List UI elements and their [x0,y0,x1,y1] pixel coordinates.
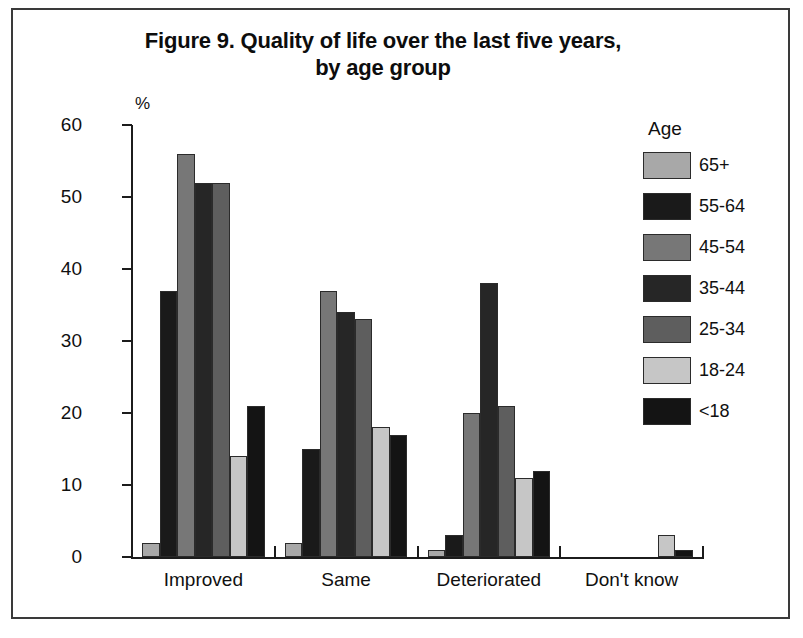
legend-item-65+: 65+ [643,152,788,190]
bar-same-45-54 [320,291,338,557]
bar-don-t-know--18 [675,550,693,557]
x-category-label-deteriorated: Deteriorated [418,569,561,591]
y-tick-label-10: 10 [22,474,82,496]
x-category-label-same: Same [275,569,418,591]
y-tick-label-0: 0 [22,546,82,568]
y-tick-label-50: 50 [22,186,82,208]
y-tick-50 [122,196,132,198]
x-tick-3 [559,546,561,559]
legend-swatch-icon [643,275,691,302]
chart-title-line-2: by age group [73,55,693,82]
y-tick-label-30: 30 [22,330,82,352]
legend-swatch-icon [643,234,691,261]
bar-improved-18-24 [230,456,248,557]
legend-item-label: <18 [699,401,730,422]
plot-area: 0102030405060 ImprovedSameDeterioratedDo… [120,114,704,559]
y-tick-60 [122,124,132,126]
legend-swatch-icon [643,398,691,425]
x-tick-0 [131,546,133,559]
bar-improved-25-34 [212,183,230,557]
y-tick-20 [122,412,132,414]
y-tick-label-60: 60 [22,114,82,136]
bar-improved-45-54 [177,154,195,557]
x-tick-2 [417,546,419,559]
figure-frame: Figure 9. Quality of life over the last … [11,8,790,619]
y-tick-30 [122,340,132,342]
bar-same-65+ [285,543,303,557]
legend-item-label: 65+ [699,155,730,176]
legend-item-55-64: 55-64 [643,193,788,231]
y-tick-40 [122,268,132,270]
bar-same--18 [390,435,408,557]
bar-deteriorated-65+ [428,550,446,557]
bar-improved--18 [247,406,265,557]
legend-swatch-icon [643,316,691,343]
y-tick-label-20: 20 [22,402,82,424]
legend-item-35-44: 35-44 [643,275,788,313]
legend-item-label: 45-54 [699,237,745,258]
legend-swatch-icon [643,193,691,220]
y-tick-10 [122,484,132,486]
bar-deteriorated-18-24 [515,478,533,557]
bar-deteriorated-45-54 [463,413,481,557]
bar-deteriorated--18 [533,471,551,557]
legend-item-label: 35-44 [699,278,745,299]
x-tick-4 [702,546,704,559]
legend-item-18-24: 18-24 [643,357,788,395]
x-category-label-improved: Improved [132,569,275,591]
page-title: Figure 9. Quality of life over the last … [73,28,693,82]
bar-improved-35-44 [195,183,213,557]
legend-item-label: 25-34 [699,319,745,340]
bar-same-25-34 [355,319,373,557]
y-axis-line [131,125,133,559]
legend-swatch-icon [643,152,691,179]
y-tick-label-40: 40 [22,258,82,280]
bar-same-55-64 [302,449,320,557]
x-tick-1 [274,546,276,559]
legend-item-25-34: 25-34 [643,316,788,354]
bar-don-t-know-18-24 [658,535,676,557]
bar-improved-55-64 [160,291,178,557]
legend-item-label: 18-24 [699,360,745,381]
chart-title-line-1: Figure 9. Quality of life over the last … [145,28,621,53]
legend-title: Age [648,118,682,140]
x-category-label-don-t-know: Don't know [560,569,703,591]
legend-swatch-icon [643,357,691,384]
legend-item--18: <18 [643,398,788,436]
bar-deteriorated-55-64 [445,535,463,557]
bar-deteriorated-35-44 [480,283,498,557]
bar-same-18-24 [372,427,390,557]
bar-deteriorated-25-34 [498,406,516,557]
legend-item-45-54: 45-54 [643,234,788,272]
bar-improved-65+ [142,543,160,557]
legend-item-label: 55-64 [699,196,745,217]
bar-same-35-44 [337,312,355,557]
y-axis-unit-label: % [135,94,150,114]
